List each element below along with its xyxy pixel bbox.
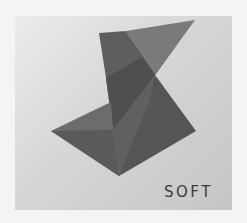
brand-text: SOFT: [164, 183, 213, 201]
lower-bottom-facet: [51, 130, 119, 176]
